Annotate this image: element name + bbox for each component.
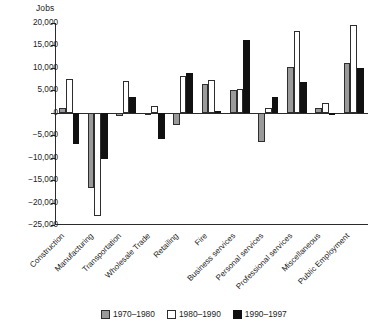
bar — [59, 108, 66, 112]
bar — [243, 40, 250, 113]
legend-item[interactable]: 1970–1980 — [101, 310, 155, 319]
y-axis-title: Jobs — [36, 3, 54, 13]
y-axis-tick-label: −25,000 — [28, 221, 58, 229]
x-axis-category-label: Manufacturing — [53, 231, 95, 273]
bar — [88, 113, 95, 188]
bar — [151, 106, 158, 113]
x-axis-category-label: Miscellaneous — [280, 231, 322, 273]
bar — [186, 73, 193, 113]
bar — [300, 82, 307, 113]
legend-item-label: 1980–1990 — [179, 310, 221, 319]
bar — [287, 67, 294, 113]
y-axis-tick — [51, 225, 55, 226]
legend-item-label: 1990–1997 — [245, 310, 287, 319]
legend-item-label: 1970–1980 — [113, 310, 155, 319]
bar — [294, 31, 301, 113]
legend-item[interactable]: 1980–1990 — [167, 310, 221, 319]
bar — [344, 63, 351, 112]
x-axis-category-label: Fire — [193, 231, 209, 247]
x-axis-category-label: Transportation — [81, 231, 124, 274]
bar — [272, 97, 279, 113]
bar — [94, 113, 101, 216]
bar — [173, 113, 180, 126]
bar — [329, 113, 336, 115]
x-axis-category-label: Wholesale Trade — [103, 231, 152, 280]
white-swatch-icon — [167, 310, 176, 319]
x-axis-category-label: Public Employment — [296, 231, 351, 286]
bar — [158, 113, 165, 139]
bar — [73, 113, 80, 144]
gray-swatch-icon — [101, 310, 110, 319]
y-axis-tick-label: −15,000 — [28, 176, 58, 184]
y-axis-tick-label: −10,000 — [28, 154, 58, 162]
bar — [208, 80, 215, 113]
black-swatch-icon — [233, 310, 242, 319]
bar — [123, 81, 130, 112]
bar — [215, 111, 222, 113]
legend-item[interactable]: 1990–1997 — [233, 310, 287, 319]
bar — [66, 79, 73, 113]
bar-series-group — [55, 23, 368, 225]
bar — [237, 89, 244, 112]
x-axis-category-label: Construction — [28, 231, 66, 269]
bar — [322, 103, 329, 113]
x-axis-category-label: Personal services — [215, 231, 266, 282]
bar — [180, 76, 187, 113]
x-axis-category-label: Retailing — [152, 231, 180, 259]
bar — [129, 97, 136, 113]
bar — [145, 113, 152, 115]
chart-legend: 1970–1980 1980–1990 1990–1997 — [101, 310, 287, 319]
y-axis-tick-label: −20,000 — [28, 198, 58, 206]
x-axis-category-label: Business services — [185, 231, 237, 283]
bar — [101, 113, 108, 159]
bar — [265, 108, 272, 112]
bar — [202, 84, 209, 113]
bar — [116, 113, 123, 116]
bar — [230, 90, 237, 112]
x-axis-category-label: Professional services — [234, 231, 294, 291]
bar — [357, 68, 364, 113]
bar — [258, 113, 265, 142]
bar — [315, 108, 322, 113]
bar — [350, 25, 357, 113]
